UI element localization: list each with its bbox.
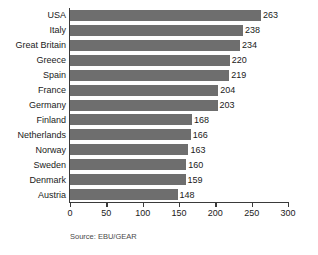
bar-value-label: 168 bbox=[192, 115, 209, 124]
category-label: Italy bbox=[0, 26, 66, 35]
category-label: France bbox=[0, 86, 66, 95]
source-note: Source: EBU/GEAR bbox=[70, 233, 137, 241]
category-label: Germany bbox=[0, 101, 66, 110]
bar-row: 238 bbox=[70, 25, 288, 36]
bar bbox=[70, 55, 230, 66]
x-tick-mark bbox=[288, 203, 289, 207]
bar-value-label: 148 bbox=[178, 190, 195, 199]
bar-row: 168 bbox=[70, 114, 288, 125]
bar-row: 204 bbox=[70, 85, 288, 96]
bar-value-label: 263 bbox=[261, 11, 278, 20]
bar-row: 220 bbox=[70, 55, 288, 66]
bar-row: 166 bbox=[70, 129, 288, 140]
x-tick-mark bbox=[143, 203, 144, 207]
bar-value-label: 163 bbox=[188, 145, 205, 154]
bar-row: 203 bbox=[70, 100, 288, 111]
bar-value-label: 160 bbox=[186, 160, 203, 169]
bar-row: 163 bbox=[70, 144, 288, 155]
chart-title bbox=[70, 0, 288, 1]
bar-row: 160 bbox=[70, 159, 288, 170]
x-tick-label: 0 bbox=[67, 209, 72, 218]
bar-row: 148 bbox=[70, 189, 288, 200]
category-label: Great Britain bbox=[0, 41, 66, 50]
bar-value-label: 159 bbox=[186, 175, 203, 184]
x-tick-mark bbox=[179, 203, 180, 207]
bar-row: 234 bbox=[70, 40, 288, 51]
bar-row: 219 bbox=[70, 70, 288, 81]
category-label: Netherlands bbox=[0, 130, 66, 139]
category-label: USA bbox=[0, 11, 66, 20]
bar bbox=[70, 144, 188, 155]
x-tick-label: 100 bbox=[135, 209, 150, 218]
bar bbox=[70, 159, 186, 170]
category-label: Denmark bbox=[0, 175, 66, 184]
x-tick-label: 200 bbox=[208, 209, 223, 218]
category-label: Sweden bbox=[0, 160, 66, 169]
bar-value-label: 238 bbox=[243, 26, 260, 35]
bar bbox=[70, 174, 186, 185]
x-tick-mark bbox=[252, 203, 253, 207]
x-tick-label: 150 bbox=[171, 209, 186, 218]
x-tick-mark bbox=[215, 203, 216, 207]
bar-value-label: 234 bbox=[240, 41, 257, 50]
x-tick-label: 250 bbox=[244, 209, 259, 218]
bar-row: 263 bbox=[70, 10, 288, 21]
x-tick-label: 50 bbox=[101, 209, 111, 218]
x-tick-mark bbox=[106, 203, 107, 207]
bar bbox=[70, 189, 178, 200]
bar bbox=[70, 40, 240, 51]
bar bbox=[70, 10, 261, 21]
bar bbox=[70, 129, 191, 140]
category-label: Spain bbox=[0, 71, 66, 80]
bar-value-label: 219 bbox=[229, 71, 246, 80]
x-tick-label: 300 bbox=[280, 209, 295, 218]
bar bbox=[70, 25, 243, 36]
category-label: Norway bbox=[0, 145, 66, 154]
bar-row: 159 bbox=[70, 174, 288, 185]
bar bbox=[70, 70, 229, 81]
bar-value-label: 166 bbox=[191, 130, 208, 139]
x-tick-mark bbox=[70, 203, 71, 207]
bar-value-label: 203 bbox=[218, 101, 235, 110]
bar bbox=[70, 114, 192, 125]
bar bbox=[70, 100, 218, 111]
bar bbox=[70, 85, 218, 96]
category-label: Greece bbox=[0, 56, 66, 65]
bar-value-label: 220 bbox=[230, 56, 247, 65]
category-label: Finland bbox=[0, 115, 66, 124]
bar-value-label: 204 bbox=[218, 86, 235, 95]
bar-chart-figure: USAItalyGreat BritainGreeceSpainFranceGe… bbox=[0, 0, 318, 255]
category-label: Austria bbox=[0, 190, 66, 199]
